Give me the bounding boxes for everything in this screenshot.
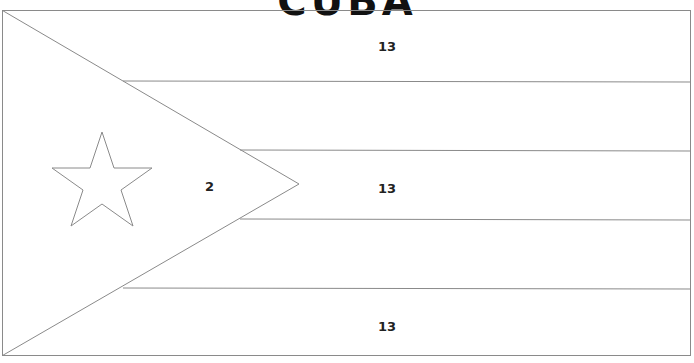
stripe-divider — [240, 219, 691, 220]
triangle-label: 2 — [205, 179, 214, 194]
stripe-label-bottom: 13 — [378, 319, 396, 334]
stripe-label-top: 13 — [378, 39, 396, 54]
flag-coloring-outline: 13 13 13 2 — [0, 0, 694, 363]
stripe-label-middle: 13 — [378, 181, 396, 196]
stripe-divider — [240, 150, 691, 151]
triangle-outline — [3, 11, 300, 356]
star-icon — [52, 132, 152, 226]
stripe-divider — [123, 81, 691, 82]
stripe-divider — [123, 288, 691, 289]
flag-border — [3, 11, 691, 356]
